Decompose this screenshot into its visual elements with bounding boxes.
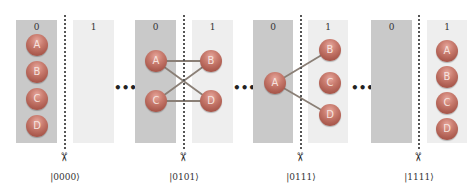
cut-line [418, 14, 420, 150]
partition-1-label: 1 [427, 22, 467, 32]
ket-label: |1111⟩ [399, 172, 439, 182]
node-a: A [436, 40, 458, 62]
panel-1111: 0 1 A B C D ✂ |1111⟩ [0, 0, 474, 196]
node-b: B [436, 66, 458, 88]
node-d: D [436, 118, 458, 140]
node-c: C [436, 92, 458, 114]
partition-0-column [371, 20, 412, 143]
scissors-icon: ✂ [411, 152, 425, 162]
partition-0-label: 0 [371, 22, 412, 32]
